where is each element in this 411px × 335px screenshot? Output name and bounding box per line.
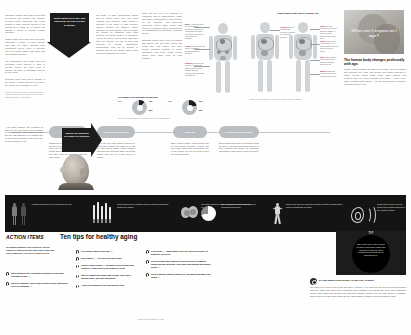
check-icon bbox=[76, 257, 79, 260]
pie-pair-caption: Percentage of the population 65 and olde… bbox=[118, 96, 222, 98]
tip-item: Practice safety habits (5) at home to pr… bbox=[76, 264, 138, 270]
tip-text: If you drink bbox=[151, 250, 162, 252]
runner-icon bbox=[273, 203, 283, 225]
left-editorial-column: Laboratory studies show that cutting bac… bbox=[5, 14, 45, 98]
pie-1-legend-b: 88% bbox=[149, 109, 152, 111]
action-items-lede: No known substance can extend life, but … bbox=[6, 246, 58, 255]
left-paragraph-3: The Framingham Heart Study found that ex… bbox=[5, 60, 45, 75]
check-icon bbox=[146, 260, 149, 263]
tip-item: Keep personal and financial records in o… bbox=[146, 260, 212, 269]
pie-icon bbox=[201, 206, 216, 221]
hero-title: What can I expect as I age? bbox=[348, 28, 400, 38]
left-paragraph-1: Laboratory studies show that cutting bac… bbox=[5, 14, 45, 34]
organ-label-brain-text: A person's ability to remember the conte… bbox=[185, 23, 204, 39]
tip-footnote: (8). bbox=[158, 276, 161, 278]
left-paragraph-2: Studies show that people who eat meals, … bbox=[5, 38, 45, 55]
tips-column-left: Eat a balanced diet, including 5 helping… bbox=[6, 272, 68, 292]
stat-text-4: Every hour spent in vigorous exercise at… bbox=[286, 203, 344, 209]
organ-label-hearing-text: Difficulty hearing high frequency sounds… bbox=[280, 26, 295, 38]
tip-text: Exercise regularly (check with a doctor … bbox=[11, 282, 68, 287]
organ-label-sight: Sight The lens becomes less elastic, mak… bbox=[320, 25, 338, 39]
human-figure-left-icon bbox=[250, 22, 280, 94]
question-icon bbox=[310, 278, 317, 285]
mid-column-c: aged. The key test is to compose or perm… bbox=[142, 12, 182, 64]
tip-item: Eat a balanced diet, including 5 helping… bbox=[6, 272, 68, 278]
organ-label-brain: Brain A person's ability to remember the… bbox=[185, 23, 205, 40]
stat-item-5: Nearly half of those over 65 suffer from… bbox=[351, 199, 406, 229]
pie-1-year: 2000 bbox=[118, 100, 122, 102]
pie-pair-chart: Percentage of the population 65 and olde… bbox=[118, 96, 222, 122]
stat-text-1: Most smokers are a leading cause of deat… bbox=[117, 203, 175, 209]
tip-text: Practice safety habits bbox=[81, 264, 102, 266]
qa-question: DO WE NEED LESS SLEEP AS WE GET OLDER? bbox=[319, 279, 405, 282]
tip-tail: it's never too late to quit. bbox=[98, 257, 123, 259]
tips-column-middle: Get regular health check-ups (3). Don't … bbox=[76, 250, 138, 291]
timeline-text-3: Brain weight falls roughly 10% between a… bbox=[219, 142, 259, 153]
ear-icon bbox=[351, 207, 364, 223]
pie-1-donut bbox=[132, 100, 147, 115]
pie-2-donut bbox=[182, 100, 197, 115]
tip-text: Get regular health check-ups bbox=[81, 250, 110, 252]
timeline-intro: A few basic changes. The oversight life … bbox=[5, 126, 43, 142]
mid-column-b: The study of aging (gerontology) shows t… bbox=[96, 14, 138, 55]
mid-c-paragraph-2: Economic factors and a view of financial… bbox=[142, 39, 182, 59]
organ-label-lungs: Lungs Muscles and ribs stiffen; maximum … bbox=[185, 45, 205, 55]
tips-column-right: If you drink (6), moderation is the key.… bbox=[146, 250, 212, 283]
check-icon bbox=[146, 250, 149, 253]
check-icon bbox=[6, 272, 9, 275]
timeline-pill-2[interactable]: Bone Thin bbox=[173, 126, 207, 138]
mid-c-paragraph-1: aged. The key test is to compose or perm… bbox=[142, 12, 182, 35]
tip-box: TIP Take a nap early in the evening, not… bbox=[336, 231, 406, 275]
tip-item: Keep a positive attitude toward life. Do… bbox=[146, 273, 212, 279]
tip-item: Exercise regularly (check with a doctor … bbox=[6, 282, 68, 288]
timeline-section: A few basic changes. The oversight life … bbox=[5, 124, 335, 184]
check-icon bbox=[76, 285, 79, 288]
body-diagram-source: Source: National Institute on Aging; U.S… bbox=[250, 98, 338, 100]
tip-text: Don't smoke bbox=[81, 257, 93, 259]
stat-text-0: Arthritis affects two of all Americans o… bbox=[31, 203, 85, 206]
stats-band: Arthritis affects two of all Americans o… bbox=[5, 195, 406, 232]
tip-text: Stay in contact with family and friends.… bbox=[81, 274, 131, 279]
pie-2-legend-a: 20% bbox=[199, 100, 202, 102]
down-arrow-quote-text: What causes us to age, and how do we do … bbox=[53, 17, 86, 27]
tip-footnote: (3). bbox=[110, 250, 113, 252]
check-icon bbox=[76, 275, 79, 278]
hero-image: What can I expect as I age? bbox=[344, 10, 404, 54]
timeline-pill-3[interactable]: The Brain & Nervous System bbox=[219, 126, 259, 138]
human-figure-icon bbox=[208, 23, 238, 95]
tip-item: If you drink (6), moderation is the key.… bbox=[146, 250, 212, 256]
action-items-title: Ten tips for healthy aging bbox=[60, 233, 137, 240]
organ-label-hearing: Hearing Difficulty hearing high frequenc… bbox=[280, 26, 298, 38]
left-paragraph-4: Fractures could keep severe disease of t… bbox=[5, 78, 45, 87]
stat-item-1: Most smokers are a leading cause of deat… bbox=[91, 199, 177, 229]
body-diagram-title: Eight Signs That You're Getting Old bbox=[256, 12, 340, 15]
organ-label-kidneys-text: Become less efficient at removing waste … bbox=[185, 62, 204, 76]
tip-footnote: (1). bbox=[28, 275, 31, 277]
elderly-head-photo bbox=[58, 152, 94, 190]
right-arrow-callout: What are our prospects for healthy life … bbox=[62, 123, 102, 157]
action-items-tag: ACTION ITEMS bbox=[6, 234, 44, 240]
pie-1-legend-a: 12% bbox=[149, 100, 152, 102]
tip-item: Don't smoke (4); it's never too late to … bbox=[76, 257, 138, 260]
timeline-text-2: Bone mineral density peaks around age 30… bbox=[171, 142, 209, 156]
check-icon bbox=[6, 282, 9, 285]
stat-text-3: 28% of seniors reported some severe musc… bbox=[221, 203, 265, 209]
people-icon-2 bbox=[20, 203, 27, 225]
timeline-pill-1[interactable]: The Aging Heart & Arteries bbox=[97, 126, 135, 138]
pie-2-legend-b: 80% bbox=[199, 109, 202, 111]
organ-label-heart: Heart Pumps blood less efficiently; the … bbox=[320, 40, 338, 52]
stat-text-5: Nearly half of those over 65 suffer from… bbox=[377, 203, 406, 212]
stat-item-0: Arthritis affects two of all Americans o… bbox=[11, 199, 89, 229]
tip-item: Stay in contact with family and friends.… bbox=[76, 274, 138, 280]
arrow-head bbox=[47, 42, 91, 58]
organ-label-muscle: Muscle Mass and strength decline; fat re… bbox=[320, 70, 338, 77]
tip-item: Avoid overexposure to the sun and the co… bbox=[76, 284, 138, 287]
action-items-source: Source: National Institute on Aging bbox=[138, 318, 164, 320]
body-diagram-pair: Eight Signs That You're Getting Old bbox=[248, 12, 338, 102]
pie-2-year: 2030 bbox=[168, 100, 172, 102]
check-icon bbox=[76, 265, 79, 268]
down-arrow-callout: What causes us to age, and how do we do … bbox=[47, 13, 92, 59]
tip-text: Avoid overexposure to the sun and the co… bbox=[81, 284, 125, 286]
check-icon bbox=[76, 250, 79, 253]
stat-item-3: 28% of seniors reported some severe musc… bbox=[201, 199, 279, 229]
